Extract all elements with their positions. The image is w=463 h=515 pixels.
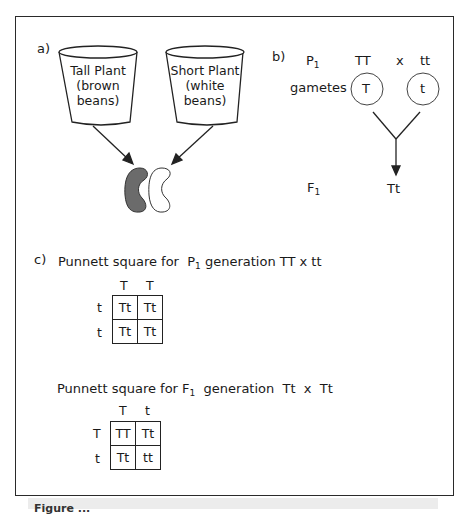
punnett1-row-header: t xyxy=(97,327,102,340)
punnett2-cell: Tt xyxy=(136,422,161,446)
title-text: Punnett square for F xyxy=(57,381,190,396)
punnett2-title: Punnett square for F1 generation Tt x Tt xyxy=(57,382,333,398)
f1-subscript: 1 xyxy=(314,187,320,197)
punnett1-col-header: T xyxy=(120,280,128,293)
title-text: generation TT x tt xyxy=(201,254,322,269)
white-bean-icon xyxy=(149,168,170,212)
punnett2-cell: Tt xyxy=(111,446,136,470)
arrows-to-beans xyxy=(93,126,213,164)
punnett2-row-header: T xyxy=(93,428,101,441)
part-c-label: c) xyxy=(34,253,46,266)
parent1-genotype: TT xyxy=(355,54,371,67)
title-text: Punnett square for P xyxy=(58,254,195,269)
cup-text-line: (white xyxy=(167,78,243,93)
f1-offspring-genotype: Tt xyxy=(387,182,400,195)
punnett1-cell: Tt xyxy=(138,296,163,320)
cup-text-line: beans) xyxy=(62,93,134,108)
punnett-square-1: Tt Tt Tt Tt xyxy=(112,295,163,344)
punnett-square-2: TT Tt Tt tt xyxy=(110,421,161,470)
f1-label: F1 xyxy=(307,181,320,197)
punnett2-cell: TT xyxy=(111,422,136,446)
part-b-label: b) xyxy=(272,50,285,63)
punnett2-col-header: T xyxy=(119,405,127,418)
title-text: generation Tt x Tt xyxy=(195,381,333,396)
punnett2-row-header: t xyxy=(95,453,100,466)
gamete2: t xyxy=(420,82,425,95)
part-a-label: a) xyxy=(37,42,50,55)
p1-subscript: 1 xyxy=(314,60,320,70)
punnett2-cell: tt xyxy=(136,446,161,470)
punnett2-col-header: t xyxy=(145,405,150,418)
parent2-genotype: tt xyxy=(420,54,430,67)
p1-letter: P xyxy=(306,53,314,68)
cup-text-line: beans) xyxy=(167,93,243,108)
gamete1: T xyxy=(362,82,370,95)
p1-label: P1 xyxy=(306,54,320,70)
punnett1-title: Punnett square for P1 generation TT x tt xyxy=(58,255,322,271)
brown-bean-icon xyxy=(125,168,148,212)
punnett1-col-header: T xyxy=(146,280,154,293)
cross-symbol: x xyxy=(396,54,404,67)
figure-caption: Figure ... xyxy=(34,503,90,514)
gamete-fusion-arrow xyxy=(373,112,420,175)
cup-text-line: Tall Plant xyxy=(62,63,134,78)
punnett1-cell: Tt xyxy=(113,296,138,320)
punnett1-cell: Tt xyxy=(113,320,138,344)
punnett1-cell: Tt xyxy=(138,320,163,344)
short-plant-label: Short Plant (white beans) xyxy=(167,63,243,108)
gametes-label: gametes xyxy=(290,81,347,94)
cup-text-line: (brown xyxy=(62,78,134,93)
cup-text-line: Short Plant xyxy=(167,63,243,78)
tall-plant-label: Tall Plant (brown beans) xyxy=(62,63,134,108)
punnett1-row-header: t xyxy=(97,302,102,315)
